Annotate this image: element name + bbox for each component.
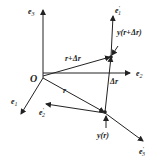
r-vector <box>43 78 104 112</box>
e3-label: e3 <box>28 7 35 17</box>
e2-label: e2 <box>136 69 143 79</box>
r-plus-dr-label: r+Δr <box>65 54 82 63</box>
e2p-axis <box>46 104 105 113</box>
e3p-axis <box>105 113 143 141</box>
dr-label: Δr <box>109 77 119 86</box>
point-r-dr <box>109 55 113 59</box>
vector-diagram: O e3 e2 e1 e′1 e′2 e′3 r+Δr r Δr y(r) y(… <box>0 0 166 162</box>
y-r-label: y(r) <box>96 131 109 140</box>
origin-label: O <box>30 73 37 84</box>
e1p-label: e′1 <box>115 5 121 16</box>
e1p-axis <box>111 16 113 57</box>
point-r <box>103 110 107 114</box>
e1-label: e1 <box>11 97 18 107</box>
e2p-label: e′2 <box>39 107 45 118</box>
e3p-label: e′3 <box>139 146 145 157</box>
y-r-dr-label: y(r+Δr) <box>116 28 142 37</box>
y-r-dr-pointer <box>112 46 118 55</box>
